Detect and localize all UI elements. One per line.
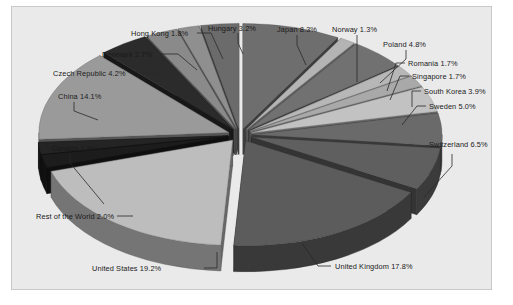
label-poland: Poland 4.8% — [383, 40, 426, 49]
label-singapore: Singapore 1.7% — [412, 72, 466, 81]
label-hong-kong: Hong Kong 1.8% — [131, 29, 188, 38]
chart-panel: Hong Kong 1.8% Hungary 3.2% Denmark 2.7%… — [11, 6, 492, 290]
label-canada: Canada 1.8% — [52, 144, 98, 153]
label-china: China 14.1% — [58, 92, 101, 101]
label-united-kingdom: United Kingdom 17.8% — [335, 262, 413, 271]
label-united-states: United States 19.2% — [92, 264, 161, 273]
label-south-korea: South Korea 3.9% — [424, 87, 486, 96]
label-romania: Romania 1.7% — [408, 59, 458, 68]
label-norway: Norway 1.3% — [332, 25, 377, 34]
label-switzerland: Switzerland 6.5% — [429, 140, 488, 149]
label-japan: Japan 8.3% — [277, 25, 317, 34]
label-sweden: Sweden 5.0% — [429, 102, 476, 111]
label-denmark: Denmark 2.7% — [102, 50, 152, 59]
label-hungary: Hungary 3.2% — [208, 24, 256, 33]
label-rest-of-the-world: Rest of the World 2.0% — [36, 212, 114, 221]
label-czech-republic: Czech Republic 4.2% — [53, 69, 126, 78]
chart-screenshot: Hong Kong 1.8% Hungary 3.2% Denmark 2.7%… — [0, 0, 513, 305]
